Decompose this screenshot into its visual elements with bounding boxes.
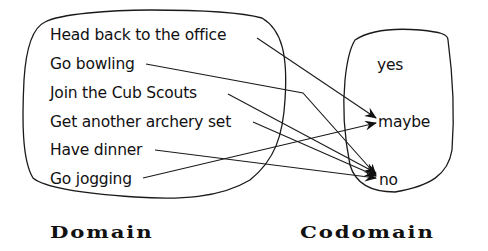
domain-item-have-dinner: Have dinner: [50, 141, 142, 159]
domain-label: Domain: [50, 222, 154, 242]
domain-item-join-cub-scouts: Join the Cub Scouts: [50, 84, 197, 102]
domain-item-go-jogging: Go jogging: [50, 170, 132, 188]
function-diagram: Head back to the office Go bowling Join …: [0, 0, 488, 251]
codomain-item-no: no: [379, 171, 398, 189]
arrow-archery-set-to-no: [253, 122, 376, 176]
domain-item-head-back-to-office: Head back to the office: [50, 26, 226, 44]
codomain-item-maybe: maybe: [378, 113, 430, 131]
codomain-item-yes: yes: [377, 56, 403, 74]
arrow-head-back-to-maybe: [257, 38, 376, 118]
codomain-set-boundary: [344, 29, 453, 192]
arrow-go-jogging-to-maybe: [143, 123, 376, 178]
domain-item-archery-set: Get another archery set: [50, 113, 231, 131]
arrow-have-dinner-to-no: [155, 150, 376, 178]
codomain-label: Codomain: [300, 222, 435, 242]
domain-item-go-bowling: Go bowling: [50, 55, 135, 73]
arrow-join-cub-scouts-to-no: [228, 94, 376, 173]
